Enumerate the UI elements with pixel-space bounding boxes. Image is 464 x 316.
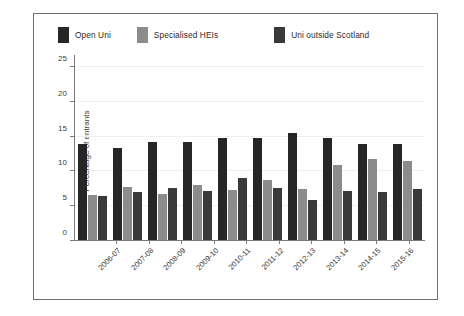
y-tick-mark bbox=[70, 240, 74, 241]
bar-2 bbox=[168, 188, 177, 240]
x-tick-mark bbox=[246, 241, 247, 244]
bar-0 bbox=[113, 148, 122, 240]
legend-label-specialised-heis: Specialised HEIs bbox=[154, 30, 218, 40]
x-tick-cell: 2010-11 bbox=[230, 241, 263, 291]
bar-0 bbox=[218, 138, 227, 240]
y-tick-mark bbox=[70, 101, 74, 102]
x-tick-label: 2010-11 bbox=[227, 246, 253, 272]
bar-0 bbox=[183, 142, 192, 240]
bar-0 bbox=[148, 142, 157, 240]
legend-swatch-open-uni bbox=[58, 27, 69, 43]
bar-0 bbox=[393, 144, 402, 240]
x-tick-mark bbox=[279, 241, 280, 244]
x-tick-label: 2008-09 bbox=[162, 246, 188, 272]
axis-frame: 0510152025 2006-072007-082008-092009-102… bbox=[74, 60, 425, 241]
x-tick-cell: 2015-16 bbox=[393, 241, 426, 291]
bar-group bbox=[285, 60, 320, 240]
bar-group bbox=[145, 60, 180, 240]
bar-1 bbox=[403, 161, 412, 240]
bar-0 bbox=[288, 133, 297, 240]
x-tick-label: 2006-07 bbox=[97, 246, 123, 272]
bar-1 bbox=[193, 185, 202, 240]
bar-1 bbox=[158, 194, 167, 240]
y-tick-mark bbox=[70, 205, 74, 206]
x-tick-mark bbox=[376, 241, 377, 244]
y-tick-mark bbox=[70, 136, 74, 137]
x-tick-mark bbox=[409, 241, 410, 244]
legend-swatch-uni-outside-scotland bbox=[274, 27, 285, 43]
x-tick-mark bbox=[311, 241, 312, 244]
x-tick-label: 2013-14 bbox=[324, 246, 350, 272]
bar-0 bbox=[78, 144, 87, 240]
bar-1 bbox=[333, 165, 342, 240]
x-tick-cell: 2011-12 bbox=[263, 241, 296, 291]
chart-figure: Open Uni Specialised HEIs Uni outside Sc… bbox=[33, 13, 438, 300]
bar-2 bbox=[343, 191, 352, 240]
bar-group bbox=[110, 60, 145, 240]
bar-group bbox=[320, 60, 355, 240]
bar-1 bbox=[368, 159, 377, 240]
x-tick-cell: 2006-07 bbox=[100, 241, 133, 291]
x-tick-label: 2015-16 bbox=[389, 246, 415, 272]
bar-2 bbox=[273, 188, 282, 240]
x-tick-cell: 2009-10 bbox=[198, 241, 231, 291]
x-tick-label: 2009-10 bbox=[194, 246, 220, 272]
bar-group bbox=[355, 60, 390, 240]
x-tick-mark bbox=[181, 241, 182, 244]
bar-1 bbox=[228, 190, 237, 240]
bar-group bbox=[390, 60, 425, 240]
bar-2 bbox=[378, 192, 387, 240]
y-tick-label: 15 bbox=[58, 123, 67, 132]
bar-0 bbox=[358, 144, 367, 240]
y-tick-mark bbox=[70, 170, 74, 171]
y-tick-label: 0 bbox=[63, 228, 67, 237]
x-tick-cell: 2014-15 bbox=[360, 241, 393, 291]
legend-label-open-uni: Open Uni bbox=[75, 30, 111, 40]
bar-1 bbox=[263, 180, 272, 240]
legend-swatch-specialised-heis bbox=[137, 27, 148, 43]
bar-group bbox=[75, 60, 110, 240]
x-tick-mark bbox=[344, 241, 345, 244]
x-tick-cell: 2012-13 bbox=[295, 241, 328, 291]
y-tick-label: 10 bbox=[58, 158, 67, 167]
x-axis-ticks: 2006-072007-082008-092009-102010-112011-… bbox=[100, 241, 425, 291]
x-tick-mark bbox=[149, 241, 150, 244]
x-tick-label: 2012-13 bbox=[292, 246, 318, 272]
plot-area: Percentage of entrants 0510152025 2006-0… bbox=[48, 60, 425, 241]
y-tick-label: 20 bbox=[58, 88, 67, 97]
x-tick-mark bbox=[214, 241, 215, 244]
y-tick-label: 25 bbox=[58, 53, 67, 62]
bar-group bbox=[215, 60, 250, 240]
bar-group bbox=[180, 60, 215, 240]
x-tick-cell: 2013-14 bbox=[328, 241, 361, 291]
legend-item-specialised-heis: Specialised HEIs bbox=[137, 27, 218, 43]
figure-caption bbox=[0, 302, 464, 316]
bar-2 bbox=[98, 196, 107, 240]
bar-group bbox=[250, 60, 285, 240]
y-tick-mark bbox=[70, 66, 74, 67]
legend-item-open-uni: Open Uni bbox=[58, 27, 111, 43]
bar-1 bbox=[298, 189, 307, 240]
legend-label-uni-outside-scotland: Uni outside Scotland bbox=[291, 30, 369, 40]
chart-legend: Open Uni Specialised HEIs Uni outside Sc… bbox=[34, 24, 437, 46]
bar-0 bbox=[323, 138, 332, 240]
bar-0 bbox=[253, 138, 262, 240]
bar-2 bbox=[308, 200, 317, 240]
bar-1 bbox=[123, 187, 132, 240]
x-tick-label: 2011-12 bbox=[259, 246, 285, 272]
legend-item-uni-outside-scotland: Uni outside Scotland bbox=[274, 27, 369, 43]
x-tick-cell: 2007-08 bbox=[133, 241, 166, 291]
x-tick-cell: 2008-09 bbox=[165, 241, 198, 291]
x-tick-mark bbox=[116, 241, 117, 244]
y-tick-label: 5 bbox=[63, 193, 67, 202]
x-tick-label: 2007-08 bbox=[129, 246, 155, 272]
bar-2 bbox=[238, 178, 247, 240]
bar-2 bbox=[203, 191, 212, 240]
bar-1 bbox=[88, 195, 97, 240]
bar-2 bbox=[133, 192, 142, 240]
bar-series-container bbox=[75, 60, 425, 240]
bar-2 bbox=[413, 189, 422, 240]
x-tick-label: 2014-15 bbox=[357, 246, 383, 272]
